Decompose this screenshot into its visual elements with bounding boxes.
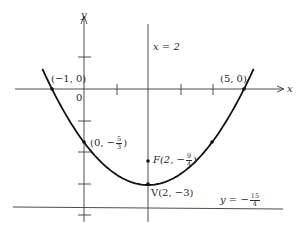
- y-intercept-prefix: (0, −: [90, 137, 115, 148]
- y-intercept-label: (0, −53): [90, 136, 127, 150]
- directrix-prefix: y = −: [220, 194, 249, 205]
- x-axis-label: x: [287, 84, 293, 94]
- y-intercept-point: [82, 140, 86, 144]
- focus-point: [146, 159, 150, 163]
- vertex-label: V(2, −3): [151, 188, 194, 198]
- axis-of-symmetry-label: x = 2: [153, 42, 180, 52]
- directrix-fraction: 154: [250, 193, 260, 207]
- y-intercept-suffix: ): [123, 137, 127, 148]
- fraction-denominator: 4: [250, 201, 260, 208]
- fraction-denominator: 4: [186, 161, 192, 168]
- x-intercept-right-label: (5, 0): [220, 74, 247, 84]
- focus-suffix: ): [193, 154, 197, 165]
- fraction-denominator: 3: [116, 144, 122, 151]
- focus-prefix: F(2, −: [153, 154, 185, 165]
- x-ticks: [117, 84, 213, 95]
- x-intercept-left-point: [50, 87, 54, 91]
- vertex-point: [146, 182, 150, 186]
- x-intercept-left-label: (−1, 0): [51, 74, 86, 84]
- focus-label: F(2, −94): [153, 153, 197, 167]
- directrix-label: y = −154: [220, 193, 261, 207]
- symmetric-point: [210, 140, 214, 144]
- origin-label: 0: [76, 93, 82, 103]
- y-intercept-fraction: 53: [116, 136, 122, 150]
- focus-fraction: 94: [186, 153, 192, 167]
- y-axis-label: y: [81, 10, 87, 20]
- x-intercept-right-point: [242, 87, 246, 91]
